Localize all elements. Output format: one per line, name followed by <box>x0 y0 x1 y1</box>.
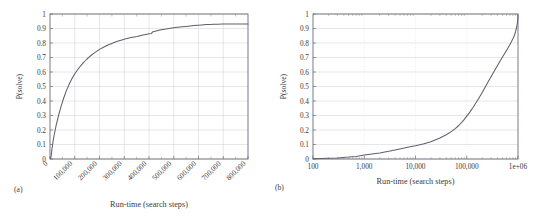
panel-b-ytick-3: 0.3 <box>300 111 309 120</box>
panel-a-caption: (a) <box>14 185 23 194</box>
panel-b-ytick-1: 0.1 <box>300 140 309 149</box>
panel-a-gridlines <box>50 14 248 159</box>
panel-a-xtick-4: 400,000 <box>125 159 148 182</box>
panel-a-xtick-5: 500,000 <box>150 159 173 182</box>
panel-a-ytick-9: 0.9 <box>37 24 46 33</box>
panel-a-ytick-2: 0.2 <box>37 126 46 135</box>
panel-b-ytick-labels: 0 0.1 0.2 0.3 0.4 0.5 0.6 0.7 0.8 0.9 1 <box>300 10 309 164</box>
panel-b-log-scale: 0 0.1 0.2 0.3 0.4 0.5 0.6 0.7 0.8 0.9 1 … <box>272 0 544 224</box>
panel-b-ytick-2: 0.2 <box>300 126 309 135</box>
panel-b-gridlines <box>313 14 518 159</box>
panel-b-y-axis-title: P(solve) <box>279 73 288 99</box>
panel-b-xtick-1: 1,000 <box>356 162 373 171</box>
panel-a-ytick-labels: 0 0.1 0.2 0.3 0.4 0.5 0.6 0.7 0.8 0.9 1 <box>37 10 46 164</box>
panel-a-ytick-8: 0.8 <box>37 39 46 48</box>
panel-b-ytick-5: 0.5 <box>300 82 309 91</box>
panel-a-xtick-3: 300,000 <box>101 159 124 182</box>
panel-b-ytick-10: 1 <box>305 10 309 19</box>
panel-a-ytick-1: 0.1 <box>37 140 46 149</box>
panel-a-xtick-2: 200,000 <box>76 159 99 182</box>
panel-a-svg: 0 0.1 0.2 0.3 0.4 0.5 0.6 0.7 0.8 0.9 1 … <box>0 0 272 224</box>
panel-a-curve <box>51 24 249 159</box>
panel-b-ytick-4: 0.4 <box>300 97 309 106</box>
panel-a-ytick-6: 0.6 <box>37 68 46 77</box>
panel-b-ytick-6: 0.6 <box>300 68 309 77</box>
panel-b-ytick-8: 0.8 <box>300 39 309 48</box>
panel-a-linear-scale: 0 0.1 0.2 0.3 0.4 0.5 0.6 0.7 0.8 0.9 1 … <box>0 0 272 224</box>
panel-a-ytick-7: 0.7 <box>37 53 46 62</box>
panel-b-xtick-4: 1e+06 <box>509 162 528 171</box>
panel-a-xtick-8: 800,000 <box>224 159 247 182</box>
panel-b-svg: 0 0.1 0.2 0.3 0.4 0.5 0.6 0.7 0.8 0.9 1 … <box>272 0 545 224</box>
panel-b-ytick-7: 0.7 <box>300 53 309 62</box>
panel-b-xtick-labels: 100 1,000 10,000 100,000 1e+06 <box>308 162 528 171</box>
panel-a-xtick-labels: 0 100,000 200,000 300,000 400,000 500,00… <box>40 159 247 182</box>
panel-a-xtick-6: 600,000 <box>175 159 198 182</box>
panel-b-xtick-2: 10,000 <box>405 162 425 171</box>
panel-b-xtick-0: 100 <box>308 162 319 171</box>
panel-a-ytick-4: 0.4 <box>37 97 46 106</box>
panel-a-y-axis-title: P(solve) <box>15 73 24 99</box>
panel-a-ytick-10: 1 <box>42 10 46 19</box>
panel-a-xtick-7: 700,000 <box>200 159 223 182</box>
panel-a-ytick-5: 0.5 <box>37 82 46 91</box>
panel-a-ytick-3: 0.3 <box>37 111 46 120</box>
figure-cdf-runtime: 0 0.1 0.2 0.3 0.4 0.5 0.6 0.7 0.8 0.9 1 … <box>0 0 545 224</box>
panel-b-xtick-3: 100,000 <box>455 162 479 171</box>
panel-b-caption: (b) <box>275 183 284 192</box>
panel-b-ytick-9: 0.9 <box>300 24 309 33</box>
panel-a-x-axis-title: Run-time (search steps) <box>110 200 188 209</box>
panel-b-x-axis-title: Run-time (search steps) <box>377 177 455 186</box>
panel-a-xtick-1: 100,000 <box>51 159 74 182</box>
